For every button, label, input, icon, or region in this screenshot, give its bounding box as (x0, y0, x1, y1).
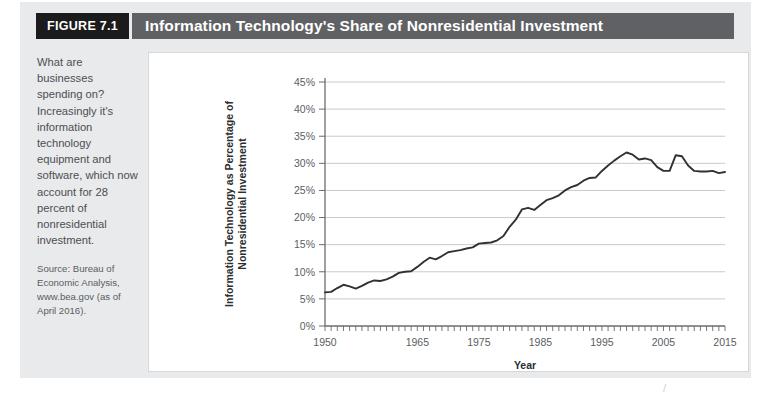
figure-block: FIGURE 7.1 Information Technology's Shar… (20, 2, 751, 378)
y-tick-label: 35% (294, 130, 315, 142)
y-axis-title-line1: Information Technology as Percentage of (223, 101, 235, 307)
y-tick-label: 20% (294, 211, 315, 223)
figure-source-note: Source: Bureau of Economic Analysis, www… (37, 262, 141, 318)
x-tick-label: 1975 (467, 336, 491, 348)
y-axis-ticks-group: 0%5%10%15%20%25%30%35%40%45% (294, 76, 325, 332)
y-tick-label: 40% (294, 103, 315, 115)
y-tick-label: 5% (300, 293, 315, 305)
y-tick-label: 30% (294, 157, 315, 169)
x-axis-title: Year (514, 359, 536, 371)
y-tick-label: 45% (294, 76, 315, 88)
y-axis-title-line2: Nonresidential Investment (236, 138, 248, 270)
x-tick-label: 2015 (713, 336, 737, 348)
x-axis-ticks-group: 1950196519751985199520052015 (313, 326, 737, 348)
figure-caption: What are businesses spending on? Increas… (37, 54, 141, 248)
x-tick-label: 1950 (313, 336, 337, 348)
x-tick-label: 1965 (406, 336, 430, 348)
figure-title: Information Technology's Share of Nonres… (129, 13, 734, 39)
figure-header: FIGURE 7.1 Information Technology's Shar… (36, 13, 734, 39)
line-chart: 0%5%10%15%20%25%30%35%40%45% 19501965197… (149, 53, 748, 371)
y-tick-label: 25% (294, 184, 315, 196)
y-tick-label: 10% (294, 266, 315, 278)
chart-panel: 0%5%10%15%20%25%30%35%40%45% 19501965197… (148, 52, 749, 372)
gridlines-group (325, 82, 725, 299)
x-tick-label: 1995 (590, 336, 614, 348)
x-tick-label: 2005 (652, 336, 676, 348)
figure-number-badge: FIGURE 7.1 (36, 13, 129, 39)
x-tick-label: 1985 (529, 336, 553, 348)
y-tick-label: 15% (294, 238, 315, 250)
caption-column: What are businesses spending on? Increas… (37, 54, 141, 318)
y-tick-label: 0% (300, 320, 315, 332)
scan-artifact-mark: / (663, 382, 666, 394)
